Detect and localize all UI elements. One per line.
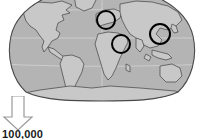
down-arrow-svg <box>2 96 38 132</box>
down-arrow <box>2 96 38 132</box>
map-globe-body <box>0 0 204 104</box>
world-map-svg <box>0 0 204 104</box>
down-arrow-shape <box>4 96 32 130</box>
scale-value: 100,000 <box>2 129 43 139</box>
world-map <box>0 0 204 104</box>
figure-root: 100,000 <box>0 0 204 139</box>
